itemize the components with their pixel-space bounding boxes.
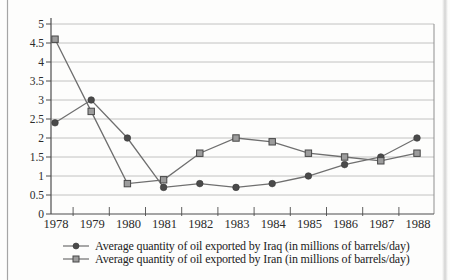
data-point-iraq-1988 xyxy=(414,135,421,142)
x-tick-label-1986: 1986 xyxy=(333,217,358,231)
data-point-iran-1983 xyxy=(233,135,239,141)
y-tick-label-3.5: 3.5 xyxy=(30,75,45,87)
y-tick-label-4.5: 4.5 xyxy=(30,37,45,49)
x-tick-label-1983: 1983 xyxy=(225,217,250,231)
x-tick-label-1985: 1985 xyxy=(297,217,322,231)
data-point-iran-1988 xyxy=(414,150,420,156)
data-point-iran-1979 xyxy=(88,108,94,114)
data-point-iran-1987 xyxy=(378,158,384,164)
data-point-iran-1984 xyxy=(269,139,275,145)
legend-label-iraq: Average quantity of oil exported by Iraq… xyxy=(95,240,410,252)
data-point-iran-1981 xyxy=(160,177,166,183)
series-line-iran xyxy=(55,39,417,183)
data-point-iran-1978 xyxy=(52,36,58,42)
x-tick-label-1980: 1980 xyxy=(116,217,141,231)
iran-square-marker-icon xyxy=(63,254,89,264)
data-point-iraq-1982 xyxy=(197,180,204,187)
data-point-iran-1985 xyxy=(305,150,311,156)
y-tick-label-0.5: 0.5 xyxy=(30,189,45,201)
x-tick-label-1979: 1979 xyxy=(80,217,105,231)
data-point-iran-1980 xyxy=(124,180,130,186)
y-tick-label-2.5: 2.5 xyxy=(30,113,45,125)
data-point-iraq-1978 xyxy=(52,120,59,127)
data-point-iraq-1986 xyxy=(341,161,348,168)
legend-item-iraq: Average quantity of oil exported by Iraq… xyxy=(63,240,410,252)
data-point-iraq-1980 xyxy=(124,135,131,142)
legend-item-iran: Average quantity of oil exported by Iran… xyxy=(63,253,410,265)
data-point-iraq-1984 xyxy=(269,180,276,187)
iraq-circle-marker-icon xyxy=(63,241,89,251)
data-point-iran-1986 xyxy=(341,154,347,160)
oil-exports-line-chart: 00.511.522.533.544.551978197919801981198… xyxy=(0,0,450,236)
x-tick-label-1988: 1988 xyxy=(406,217,431,231)
series-line-iraq xyxy=(55,100,417,187)
x-tick-label-1987: 1987 xyxy=(369,217,394,231)
x-tick-label-1981: 1981 xyxy=(152,217,177,231)
data-point-iraq-1983 xyxy=(233,184,240,191)
y-tick-label-1.5: 1.5 xyxy=(30,151,45,163)
x-tick-label-1984: 1984 xyxy=(261,217,287,231)
data-point-iraq-1985 xyxy=(305,173,312,180)
y-tick-label-5: 5 xyxy=(38,18,44,30)
data-point-iraq-1981 xyxy=(160,184,167,191)
y-tick-label-2: 2 xyxy=(38,132,44,144)
chart-legend: Average quantity of oil exported by Iraq… xyxy=(63,240,410,266)
y-tick-label-4: 4 xyxy=(38,56,44,68)
scanned-book-page: { "chart_data": { "type": "line", "title… xyxy=(0,0,450,280)
x-tick-label-1978: 1978 xyxy=(44,217,69,231)
data-point-iran-1982 xyxy=(197,150,203,156)
legend-label-iran: Average quantity of oil exported by Iran… xyxy=(95,253,410,265)
y-tick-label-3: 3 xyxy=(38,94,44,106)
data-point-iraq-1979 xyxy=(88,97,95,104)
y-tick-label-1: 1 xyxy=(38,170,44,182)
x-tick-label-1982: 1982 xyxy=(188,217,213,231)
